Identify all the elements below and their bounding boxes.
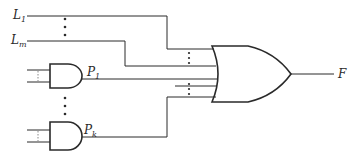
ellipsis-literals <box>64 18 67 37</box>
label-f-base: F <box>338 67 346 81</box>
or-gate <box>212 46 291 102</box>
ellipsis-or-top <box>188 52 190 64</box>
label-f: F <box>338 68 346 80</box>
label-l1: L1 <box>13 9 26 24</box>
label-l1-sub: 1 <box>21 15 26 24</box>
label-pk: Pk <box>84 124 97 139</box>
label-p1-base: P <box>87 65 95 79</box>
label-lm: Lm <box>11 34 27 49</box>
label-pk-base: P <box>84 123 92 137</box>
ellipsis-or-bottom <box>188 83 190 95</box>
ellipsis-products <box>64 97 67 116</box>
and-gate-p1 <box>50 64 82 88</box>
label-pk-sub: k <box>92 130 97 139</box>
label-l1-base: L <box>13 8 21 22</box>
label-p1-sub: 1 <box>95 72 100 81</box>
and-gate-pk <box>50 122 82 150</box>
wire-lm <box>27 41 216 66</box>
wire-pk <box>82 97 216 137</box>
circuit-diagram <box>0 0 352 161</box>
wire-l1 <box>27 16 214 49</box>
label-lm-base: L <box>11 33 19 47</box>
label-lm-sub: m <box>19 40 27 49</box>
label-p1: P1 <box>87 66 100 81</box>
